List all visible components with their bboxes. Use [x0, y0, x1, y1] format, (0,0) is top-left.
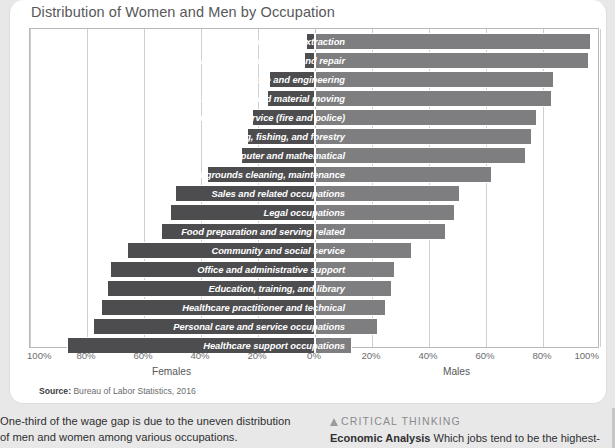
bar-row: Education, training, and library [30, 279, 598, 298]
bar-label: Legal occupations [30, 205, 349, 220]
bar-label: Installation, maintenance, and repair [30, 53, 349, 68]
bar-row: Building and grounds cleaning, maintenan… [30, 165, 598, 184]
bar-row: Food preparation and serving related [30, 222, 598, 241]
critical-thinking-block: CRITICAL THINKING Economic Analysis Whic… [330, 414, 615, 448]
x-tick-60%: 60% [133, 350, 152, 361]
bar-label: Food preparation and serving related [30, 224, 349, 239]
bar-row: Computer and mathematical [30, 146, 598, 165]
bar-row: Personal care and service occupations [30, 317, 598, 336]
bar-row: Office and administrative support [30, 260, 598, 279]
x-axis-tick-labels: 100%80%60%40%20%0%20%40%60%80%100% [29, 350, 599, 364]
bar-row: Farming, fishing, and forestry [30, 127, 598, 146]
x-tick-40%: 40% [418, 350, 437, 361]
bar-row: Sales and related occupations [30, 184, 598, 203]
bar-male [315, 33, 591, 50]
bar-label: Architecture and engineering [30, 72, 349, 87]
bar-row: Transportation and material moving [30, 89, 598, 108]
bar-row: Installation, maintenance, and repair [30, 51, 598, 70]
bar-row: Community and social service [30, 241, 598, 260]
axis-label-females: Females [152, 366, 191, 377]
source-value: Bureau of Labor Statistics, 2016 [71, 386, 196, 396]
bar-label: Sales and related occupations [30, 186, 349, 201]
figure-title: Distribution of Women and Men by Occupat… [31, 4, 335, 20]
chart-plot-area: Construction and extractionInstallation,… [29, 28, 599, 348]
bar-label: Construction and extraction [30, 34, 349, 49]
warning-triangle-icon [330, 418, 338, 426]
axis-label-males: Males [443, 366, 470, 377]
bar-label: Personal care and service occupations [30, 319, 349, 334]
bar-label: Community and social service [30, 243, 349, 258]
bar-row: Architecture and engineering [30, 70, 598, 89]
bar-label: Computer and mathematical [30, 148, 349, 163]
textbook-figure-page: Distribution of Women and Men by Occupat… [0, 0, 615, 448]
bar-label: Farming, fishing, and forestry [30, 129, 349, 144]
bar-label: Building and grounds cleaning, maintenan… [30, 167, 349, 182]
figure-card: Distribution of Women and Men by Occupat… [9, 0, 607, 404]
critical-thinking-text: Economic Analysis Which jobs tend to be … [330, 431, 615, 448]
bar-label: Transportation and material moving [30, 91, 349, 106]
x-tick-100%: 100% [574, 350, 599, 361]
chart-bars: Construction and extractionInstallation,… [30, 29, 598, 347]
bar-male [315, 90, 552, 107]
x-tick-0%: 0% [307, 350, 321, 361]
bar-label: Office and administrative support [30, 262, 349, 277]
x-tick-80%: 80% [76, 350, 95, 361]
figure-source: Source: Bureau of Labor Statistics, 2016 [39, 386, 196, 396]
gridline-100% [600, 29, 601, 347]
x-tick-20%: 20% [361, 350, 380, 361]
x-tick-100%: 100% [27, 350, 52, 361]
bar-male [315, 71, 554, 88]
bar-label: Protective service (fire and police) [30, 110, 349, 125]
x-tick-20%: 20% [247, 350, 266, 361]
x-tick-60%: 60% [475, 350, 494, 361]
source-prefix: Source: [39, 386, 71, 396]
critical-thinking-lead: Economic Analysis [330, 432, 430, 444]
bar-row: Construction and extraction [30, 32, 598, 51]
bar-row: Protective service (fire and police) [30, 108, 598, 127]
bar-label: Healthcare practitioner and technical [30, 300, 349, 315]
critical-thinking-heading-text: CRITICAL THINKING [341, 415, 461, 427]
critical-thinking-heading: CRITICAL THINKING [330, 414, 615, 430]
x-tick-80%: 80% [532, 350, 551, 361]
body-paragraph-left: One-third of the wage gap is due to the … [0, 414, 300, 445]
bar-row: Healthcare practitioner and technical [30, 298, 598, 317]
bar-row: Legal occupations [30, 203, 598, 222]
bar-label: Education, training, and library [30, 281, 349, 296]
bar-male [315, 52, 589, 69]
x-tick-40%: 40% [190, 350, 209, 361]
